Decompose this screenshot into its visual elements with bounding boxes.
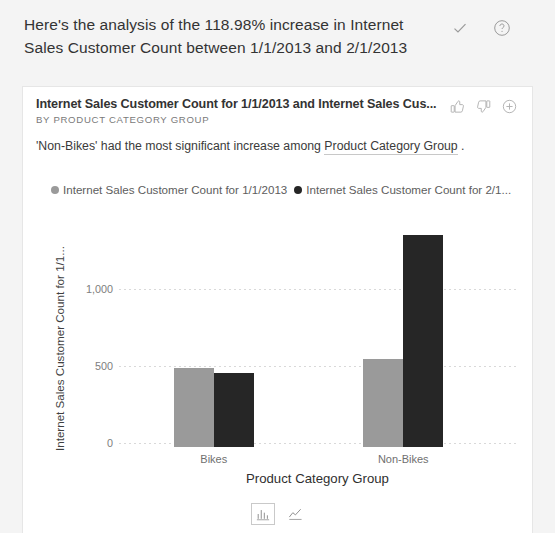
y-axis-tick-label: 0 <box>71 437 113 449</box>
x-axis-category-label: Non-Bikes <box>363 453 443 465</box>
description-prefix: 'Non-Bikes' had the most significant inc… <box>36 139 324 153</box>
description-suffix: . <box>458 139 465 153</box>
legend-dot-series-1 <box>51 186 59 194</box>
bar-group <box>174 368 254 447</box>
thumbs-down-icon[interactable] <box>475 98 492 115</box>
y-axis-tick-label: 500 <box>71 360 113 372</box>
card-title: Internet Sales Customer Count for 1/1/20… <box>36 97 449 111</box>
analysis-header-text: Here's the analysis of the 118.98% incre… <box>24 13 444 59</box>
chart-plot-area: Internet Sales Customer Count for 1/1...… <box>23 206 533 476</box>
help-circle-icon[interactable] <box>492 18 512 38</box>
chart-legend: Internet Sales Customer Count for 1/1/20… <box>51 183 521 196</box>
y-axis-tick-label: 1,000 <box>71 283 113 295</box>
card-description: 'Non-Bikes' had the most significant inc… <box>36 138 518 154</box>
bar-bikes-series-1[interactable] <box>174 368 214 447</box>
plus-circle-icon[interactable] <box>501 98 518 115</box>
x-axis-title: Product Category Group <box>119 471 516 486</box>
x-axis-category-label: Bikes <box>174 453 254 465</box>
header-actions <box>450 18 512 38</box>
legend-dot-series-2 <box>294 186 302 194</box>
y-axis-title: Internet Sales Customer Count for 1/1... <box>53 206 69 451</box>
legend-label-series-2: Internet Sales Customer Count for 2/1... <box>306 183 511 196</box>
analysis-header: Here's the analysis of the 118.98% incre… <box>0 0 555 78</box>
bar-non-bikes-series-1[interactable] <box>363 359 403 447</box>
thumbs-up-icon[interactable] <box>449 98 466 115</box>
bar-non-bikes-series-2[interactable] <box>403 235 443 447</box>
legend-item-series-1[interactable]: Internet Sales Customer Count for 1/1/20… <box>51 183 287 196</box>
insight-card: Internet Sales Customer Count for 1/1/20… <box>22 86 533 533</box>
chart-bars: BikesNon-Bikes <box>119 206 516 476</box>
bar-bikes-series-2[interactable] <box>214 373 254 447</box>
legend-label-series-1: Internet Sales Customer Count for 1/1/20… <box>63 183 287 196</box>
description-term[interactable]: Product Category Group <box>324 139 457 155</box>
card-title-block: Internet Sales Customer Count for 1/1/20… <box>36 97 449 125</box>
check-icon[interactable] <box>450 18 470 38</box>
bar-chart-icon[interactable] <box>253 505 273 523</box>
line-chart-icon[interactable] <box>285 505 305 523</box>
bar-group <box>363 235 443 447</box>
legend-item-series-2[interactable]: Internet Sales Customer Count for 2/1... <box>294 183 511 196</box>
card-subtitle: BY PRODUCT CATEGORY GROUP <box>36 114 449 125</box>
card-actions <box>449 98 518 115</box>
viz-type-toggles <box>23 505 533 523</box>
card-header: Internet Sales Customer Count for 1/1/20… <box>23 87 532 125</box>
